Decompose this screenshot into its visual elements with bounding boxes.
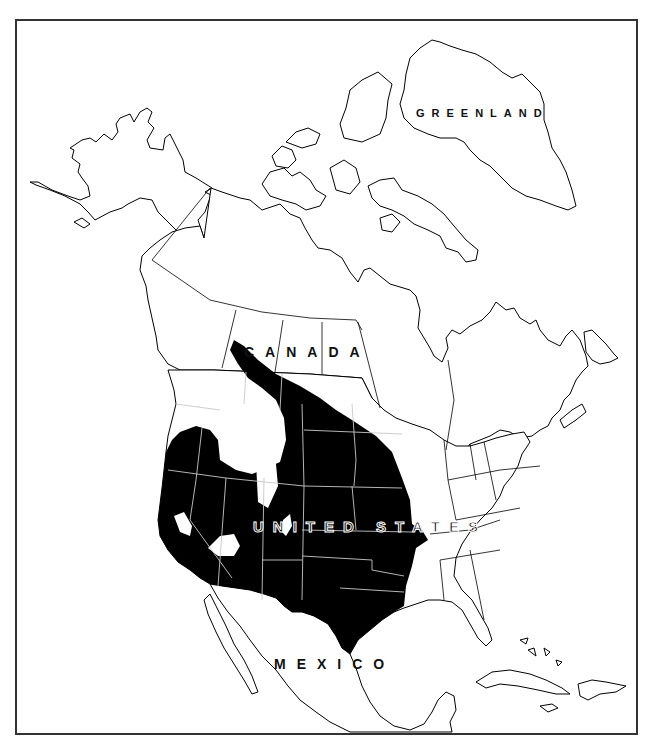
bahamas-outline [520, 638, 562, 666]
nova-scotia-outline [560, 404, 586, 428]
north-america-range-map: GREENLAND CANADA UNITED STATES MEXICO [0, 0, 651, 746]
greenland-outline [400, 40, 576, 210]
label-united-states: UNITED STATES [253, 518, 487, 535]
banks-island-outline [272, 146, 296, 168]
victoria-island-outline [262, 168, 326, 210]
jamaica-outline [540, 704, 558, 712]
label-canada: CANADA [244, 344, 371, 360]
alaska-outline [30, 108, 212, 238]
hispaniola-outline [578, 680, 626, 700]
newfoundland-outline [584, 330, 618, 364]
southampton-island-outline [380, 214, 400, 232]
alaska-peninsula-outline [74, 218, 90, 228]
cuba-outline [476, 670, 570, 694]
ellesmere-island-outline [340, 72, 392, 142]
arctic-island-outline [330, 160, 360, 194]
label-greenland: GREENLAND [416, 107, 549, 119]
label-mexico: MEXICO [274, 656, 395, 672]
arctic-island-outline [286, 128, 320, 148]
